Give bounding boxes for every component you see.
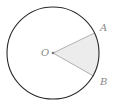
label-b: B [99, 76, 107, 87]
shaded-sector-oab [53, 33, 99, 76]
label-a: A [99, 22, 107, 33]
label-o: O [41, 47, 49, 58]
center-point [52, 52, 55, 55]
sector-diagram: O A B [0, 0, 114, 105]
